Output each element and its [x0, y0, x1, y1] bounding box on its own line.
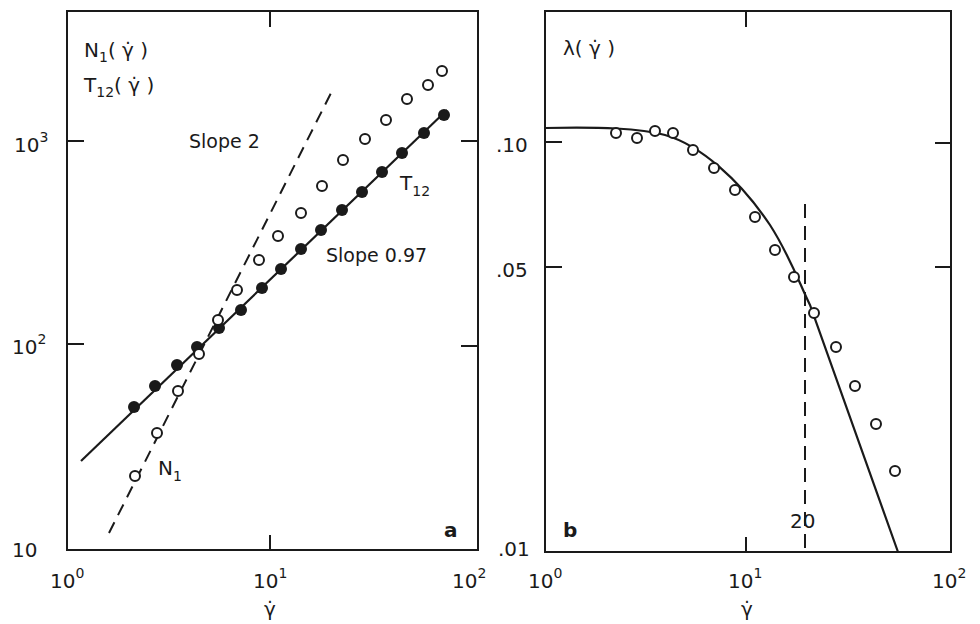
n1-points — [130, 66, 447, 481]
ytick-0.10: .10 — [496, 133, 528, 157]
xtick-10: 101 — [253, 565, 287, 593]
n1-label: N1 — [158, 456, 182, 484]
lambda-model-curve — [545, 128, 898, 552]
lambda-points — [611, 126, 900, 476]
panel-letter-a: a — [444, 518, 458, 542]
xtick-b-10: 101 — [728, 565, 762, 593]
ytick-100: 102 — [12, 331, 46, 359]
ylabel-t12: T12( γ̇ ) — [83, 73, 154, 100]
slope2-label: Slope 2 — [189, 130, 260, 152]
t12-label: T12 — [399, 171, 430, 199]
panel-a: N1( γ̇ ) T12( γ̇ ) 10 102 103 100 101 10… — [12, 11, 486, 621]
slope097-label: Slope 0.97 — [326, 244, 427, 266]
marker-20-label: 20 — [790, 509, 815, 533]
xlabel-a: γ̇ — [264, 597, 276, 621]
ylabel-n1: N1( γ̇ ) — [84, 38, 148, 65]
panel-b: λ( γ̇ ) .10 .05 .01 100 101 102 γ̇ 20 b — [496, 11, 966, 621]
xtick-1: 100 — [50, 565, 84, 593]
ylabel-lambda: λ( γ̇ ) — [563, 36, 615, 60]
figure: N1( γ̇ ) T12( γ̇ ) 10 102 103 100 101 10… — [0, 0, 980, 624]
ytick-1000: 103 — [14, 129, 48, 157]
ytick-0.01: .01 — [498, 537, 530, 561]
xtick-b-1: 100 — [528, 565, 562, 593]
ytick-0.05: .05 — [496, 258, 528, 282]
xlabel-b: γ̇ — [741, 597, 753, 621]
xtick-b-100: 102 — [932, 565, 966, 593]
ytick-10: 10 — [12, 538, 37, 562]
xtick-100: 102 — [452, 565, 486, 593]
panel-letter-b: b — [563, 518, 577, 542]
slope2-dashed-line — [109, 93, 331, 533]
